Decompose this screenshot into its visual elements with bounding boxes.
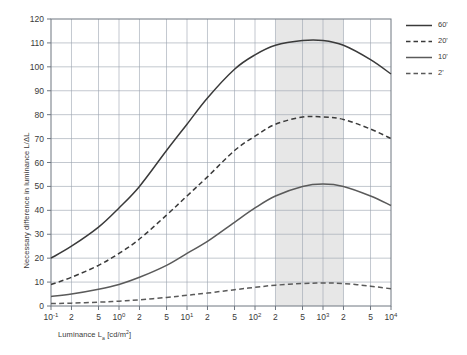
y-tick-label: 110: [30, 38, 44, 48]
plot-area: 010203040506070809010011012010-125100251…: [0, 0, 467, 355]
x-tick-label: 100: [113, 312, 126, 322]
y-tick-label: 80: [35, 110, 45, 120]
legend: 60'20'10'2': [406, 18, 466, 82]
legend-label: 60': [438, 18, 448, 31]
y-axis-title: Necessary difference in luminance L/ΔL: [22, 91, 31, 311]
legend-item[interactable]: 10': [406, 50, 466, 66]
legend-item[interactable]: 60': [406, 18, 466, 34]
y-tick-label: 60: [35, 158, 45, 168]
x-tick-label: 2: [69, 312, 74, 322]
y-tick-label: 10: [35, 277, 45, 287]
legend-line-swatch: [406, 56, 432, 58]
legend-line-swatch: [406, 40, 432, 42]
x-tick-label: 104: [385, 312, 398, 322]
legend-label: 20': [438, 34, 448, 47]
x-tick-label: 5: [368, 312, 373, 322]
y-tick-label: 120: [30, 14, 44, 24]
y-tick-label: 40: [35, 205, 45, 215]
x-tick-label: 2: [137, 312, 142, 322]
x-tick-label: 103: [317, 312, 330, 322]
x-tick-label: 5: [232, 312, 237, 322]
legend-item[interactable]: 2': [406, 66, 466, 82]
y-tick-label: 30: [35, 229, 45, 239]
x-tick-label: 2: [273, 312, 278, 322]
x-tick-label: 2: [341, 312, 346, 322]
legend-item[interactable]: 20': [406, 34, 466, 50]
y-tick-label: 20: [35, 253, 45, 263]
x-axis-title: Luminance La [cd/m2]: [58, 330, 131, 339]
legend-line-swatch: [406, 72, 432, 74]
y-tick-label: 50: [35, 181, 45, 191]
x-tick-label: 5: [300, 312, 305, 322]
x-tick-label: 5: [96, 312, 101, 322]
x-tick-label: 5: [164, 312, 169, 322]
x-tick-label: 10-1: [44, 312, 59, 322]
x-tick-label: 2: [205, 312, 210, 322]
y-tick-label: 90: [35, 86, 45, 96]
legend-label: 2': [438, 66, 444, 79]
legend-label: 10': [438, 50, 448, 63]
x-tick-label: 101: [181, 312, 194, 322]
y-tick-label: 70: [35, 134, 45, 144]
x-tick-label: 102: [249, 312, 262, 322]
chart-figure: 010203040506070809010011012010-125100251…: [0, 0, 467, 355]
y-tick-label: 100: [30, 62, 44, 72]
y-tick-label: 0: [39, 301, 44, 311]
legend-line-swatch: [406, 24, 432, 26]
